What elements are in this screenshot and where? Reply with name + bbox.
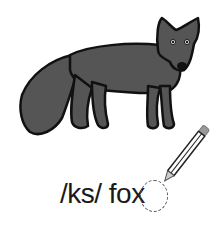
highlight-circle bbox=[140, 180, 168, 212]
flashcard: /ks/ fox bbox=[0, 0, 224, 225]
phoneme-text: /ks/ bbox=[60, 178, 102, 209]
phonics-caption: /ks/ fox bbox=[60, 178, 145, 210]
